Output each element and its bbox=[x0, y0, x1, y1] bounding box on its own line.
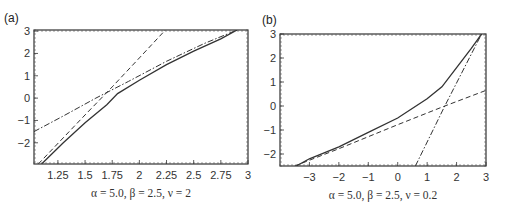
x-tick-label: 3 bbox=[245, 169, 251, 181]
x-tick-label: 3 bbox=[483, 171, 489, 183]
y-tick-label: 2 bbox=[270, 52, 276, 64]
y-tick-label: −1 bbox=[17, 114, 30, 126]
y-tick-label: 1 bbox=[270, 76, 276, 88]
y-tick-label: 0 bbox=[24, 92, 30, 104]
y-tick-label: 3 bbox=[270, 28, 276, 40]
x-tick-label: −2 bbox=[333, 171, 346, 183]
y-tick-label: 1 bbox=[24, 70, 30, 82]
plot-frame bbox=[280, 34, 486, 166]
x-tick-label: 2 bbox=[136, 169, 142, 181]
x-tick-label: 1 bbox=[424, 171, 430, 183]
series-solid bbox=[296, 34, 481, 166]
y-tick-label: −2 bbox=[263, 148, 276, 160]
series-dashed bbox=[38, 30, 165, 164]
x-tick-label: 2.75 bbox=[210, 169, 231, 181]
x-tick-label: −1 bbox=[362, 171, 375, 183]
x-tick-label: 1.25 bbox=[47, 169, 68, 181]
series-solid bbox=[42, 30, 238, 164]
x-tick-label: 2 bbox=[454, 171, 460, 183]
x-tick-label: 2.25 bbox=[156, 169, 177, 181]
y-tick-label: −1 bbox=[263, 124, 276, 136]
x-tick-label: −3 bbox=[303, 171, 316, 183]
y-tick-label: 0 bbox=[270, 100, 276, 112]
y-tick-label: 2 bbox=[24, 47, 30, 59]
panel-label: (a) bbox=[4, 11, 19, 25]
x-tick-label: 2.5 bbox=[186, 169, 201, 181]
series-dashed bbox=[295, 90, 486, 166]
x-axis-label: α = 5.0, β = 2.5, ν = 0.2 bbox=[329, 189, 438, 202]
chart-panel-b: −3−2−10123−2−10123(b)α = 5.0, β = 2.5, ν… bbox=[262, 13, 489, 202]
x-tick-label: 1.75 bbox=[102, 169, 123, 181]
plot-frame bbox=[34, 30, 248, 164]
panel-label: (b) bbox=[262, 13, 277, 27]
x-tick-label: 1.5 bbox=[77, 169, 92, 181]
y-tick-label: 3 bbox=[24, 25, 30, 37]
chart-panel-a: 1.251.51.7522.252.52.753−2−10123(a)α = 5… bbox=[4, 11, 251, 200]
y-tick-label: −2 bbox=[17, 137, 30, 149]
figure: 1.251.51.7522.252.52.753−2−10123(a)α = 5… bbox=[0, 0, 507, 204]
x-axis-label: α = 5.0, β = 2.5, ν = 2 bbox=[91, 187, 191, 200]
x-tick-label: 0 bbox=[395, 171, 401, 183]
